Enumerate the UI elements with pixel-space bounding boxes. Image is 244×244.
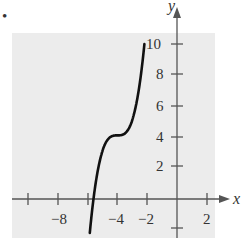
x-tick-label: 2 (203, 211, 211, 227)
y-tick-label: 8 (156, 66, 164, 82)
x-axis-label: x (232, 190, 240, 207)
y-tick-label: 2 (156, 158, 164, 174)
y-tick-label: 6 (156, 98, 164, 114)
y-tick-label: 10 (146, 36, 161, 52)
y-axis-label: y (166, 0, 176, 15)
x-tick-label: −8 (51, 211, 67, 227)
chart: • x y −8 −4 −2 2 10 8 6 4 2 (0, 0, 244, 244)
item-bullet: • (2, 8, 7, 24)
x-tick-label: −2 (138, 211, 154, 227)
x-axis-arrow-icon (219, 195, 230, 203)
y-tick-label: 4 (156, 129, 164, 145)
x-tick-label: −4 (108, 211, 124, 227)
